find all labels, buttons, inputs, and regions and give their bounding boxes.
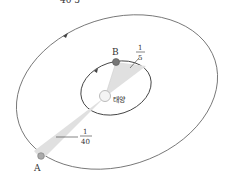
fraction-b-numerator: 1: [138, 44, 142, 52]
planet-b-label: B: [112, 47, 119, 57]
planet-b-icon: [113, 59, 120, 66]
sector-a: [34, 97, 105, 160]
fraction-a-denominator: 40: [81, 138, 90, 146]
sector-b: [105, 62, 146, 97]
fraction-b-denominator: 5: [138, 54, 142, 62]
kepler-orbit-diagram: 40 5 태양 B A 1 5 1 40: [0, 0, 225, 179]
sun-icon: [100, 91, 111, 102]
sun-label: 태양: [113, 96, 126, 104]
title-fragment: 40 5: [60, 0, 80, 5]
fraction-a-numerator: 1: [83, 128, 87, 136]
planet-a-icon: [38, 153, 45, 160]
planet-a-label: A: [33, 163, 41, 173]
